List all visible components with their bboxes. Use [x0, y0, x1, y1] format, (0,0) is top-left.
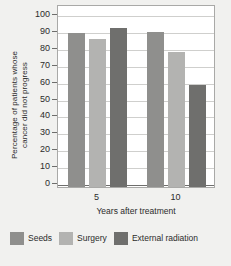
- y-tick-80: 80: [40, 43, 57, 54]
- y-tick-60: 60: [40, 77, 57, 88]
- plot-area: [57, 5, 215, 188]
- y-tick-label: 0: [45, 178, 50, 189]
- y-tick-label: 30: [40, 127, 50, 138]
- y-tick-label: 100: [35, 9, 50, 20]
- y-tick-100: 100: [35, 9, 57, 20]
- legend-swatch-icon: [59, 232, 73, 245]
- legend-label: Seeds: [28, 233, 52, 243]
- legend-swatch-icon: [114, 232, 128, 245]
- legend-label: Surgery: [77, 233, 107, 243]
- y-tick-40: 40: [40, 110, 57, 121]
- legend-swatch-icon: [10, 232, 24, 245]
- x-tick-label-5: 5: [94, 192, 99, 202]
- bar-external-radiation-10yr: [189, 85, 206, 187]
- y-tick-50: 50: [40, 94, 57, 105]
- y-tick-label: 70: [40, 60, 50, 71]
- x-axis-title: Years after treatment: [57, 206, 215, 216]
- y-tick-label: 60: [40, 77, 50, 88]
- y-tick-90: 90: [40, 26, 57, 37]
- y-tick-label: 10: [40, 161, 50, 172]
- bar-chart-figure: Percentage of patients whose cancer did …: [0, 0, 231, 266]
- y-tick-0: 0: [45, 178, 57, 189]
- y-tick-30: 30: [40, 127, 57, 138]
- y-tick-20: 20: [40, 144, 57, 155]
- y-tick-70: 70: [40, 60, 57, 71]
- x-axis-tick-labels: 510: [57, 192, 215, 205]
- legend-item-external-radiation[interactable]: External radiation: [114, 232, 198, 245]
- x-tick-label-10: 10: [170, 192, 180, 202]
- chart-legend: SeedsSurgeryExternal radiation: [10, 228, 224, 248]
- bar-surgery-5yr: [89, 39, 106, 188]
- y-tick-label: 40: [40, 110, 50, 121]
- y-tick-10: 10: [40, 161, 57, 172]
- legend-item-surgery[interactable]: Surgery: [59, 232, 107, 245]
- bar-external-radiation-5yr: [110, 28, 127, 187]
- bar-seeds-10yr: [147, 32, 164, 187]
- bar-seeds-5yr: [68, 33, 85, 187]
- legend-item-seeds[interactable]: Seeds: [10, 232, 52, 245]
- y-tick-label: 90: [40, 26, 50, 37]
- bars-container: [58, 6, 214, 187]
- bar-surgery-10yr: [168, 52, 185, 187]
- y-axis-tick-labels: 0102030405060708090100: [0, 5, 57, 188]
- legend-label: External radiation: [132, 233, 198, 243]
- y-tick-label: 80: [40, 43, 50, 54]
- y-tick-label: 20: [40, 144, 50, 155]
- y-tick-label: 50: [40, 94, 50, 105]
